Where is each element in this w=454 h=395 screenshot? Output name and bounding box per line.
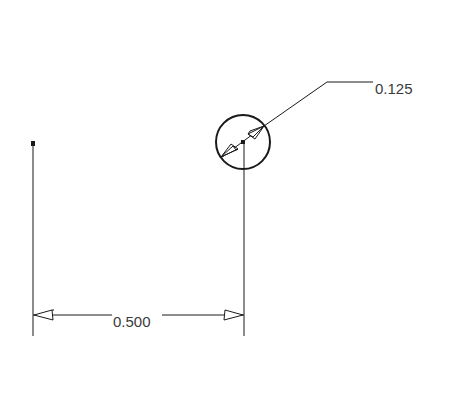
horizontal-dimension-label[interactable]: 0.500 (113, 313, 151, 330)
sketch-point[interactable] (31, 141, 35, 146)
arrowhead-right-icon (224, 310, 243, 320)
arrowhead-left-icon (34, 310, 53, 320)
diameter-dimension-label[interactable]: 0.125 (375, 80, 413, 97)
sketch-canvas: 0.125 0.500 (0, 0, 454, 395)
leader-line (264, 82, 373, 126)
